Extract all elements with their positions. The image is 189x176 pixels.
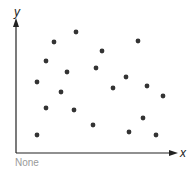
data-point xyxy=(94,66,99,71)
y-axis-arrow-icon xyxy=(13,18,19,27)
data-point xyxy=(74,30,79,35)
data-point xyxy=(111,86,116,91)
y-axis-label: y xyxy=(13,5,21,19)
data-point xyxy=(65,70,70,75)
data-point xyxy=(35,80,40,85)
data-point xyxy=(127,130,132,135)
data-points xyxy=(35,30,166,138)
data-point xyxy=(59,90,64,95)
data-point xyxy=(141,116,146,121)
data-point xyxy=(44,59,49,64)
data-point xyxy=(52,40,57,45)
scatter-plot: y x xyxy=(0,0,189,176)
data-point xyxy=(145,84,150,89)
data-point xyxy=(91,123,96,128)
x-axis-arrow-icon xyxy=(169,150,178,156)
data-point xyxy=(72,108,77,113)
data-point xyxy=(154,133,159,138)
data-point xyxy=(136,39,141,44)
data-point xyxy=(35,133,40,138)
data-point xyxy=(100,49,105,54)
data-point xyxy=(161,94,166,99)
data-point xyxy=(124,75,129,80)
x-axis-label: x xyxy=(179,146,187,160)
data-point xyxy=(44,106,49,111)
caption: None xyxy=(15,157,39,168)
